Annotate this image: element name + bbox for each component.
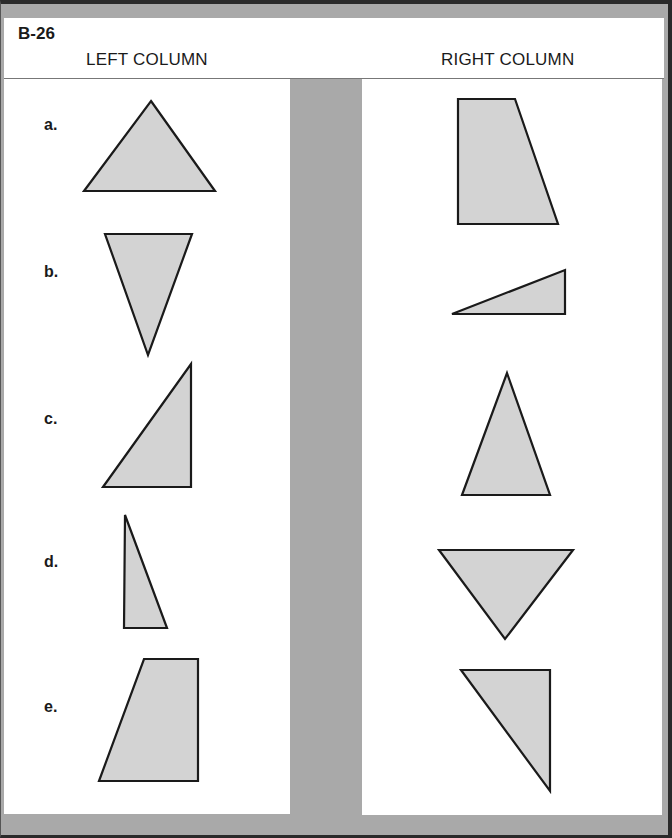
left-shape-c-right-triangle[interactable] (103, 364, 191, 487)
right-shape-1-trapezoid[interactable] (458, 99, 558, 224)
left-shape-d-right-triangle[interactable] (124, 515, 167, 628)
right-shape-4-triangle[interactable] (439, 550, 573, 639)
right-shape-2-right-triangle[interactable] (452, 270, 565, 314)
right-shape-3-triangle[interactable] (462, 373, 550, 495)
right-shape-5-right-triangle[interactable] (461, 670, 550, 791)
left-shape-e-trapezoid[interactable] (99, 659, 198, 781)
shapes-canvas (0, 0, 672, 838)
left-shape-a-triangle[interactable] (84, 101, 215, 191)
left-shape-b-triangle[interactable] (105, 234, 192, 355)
